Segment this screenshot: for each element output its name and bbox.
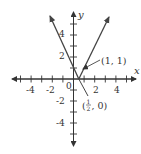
y-axis: y xyxy=(70,9,84,146)
vertex-leader-line xyxy=(79,79,88,96)
y-tick-label-neg2: -2 xyxy=(56,96,65,106)
x-tick-label-4: 4 xyxy=(114,85,120,95)
y-tick-label-2: 2 xyxy=(59,51,65,61)
x-tick-label-neg4: -4 xyxy=(26,85,35,95)
left-branch xyxy=(50,16,79,79)
vertex-label-rest: , 0) xyxy=(92,100,108,111)
vertex-label-numerator: 1 xyxy=(87,98,91,105)
origin-label: 0 xyxy=(66,81,72,91)
x-tick-label-neg2: -2 xyxy=(46,85,55,95)
x-tick-label-2: 2 xyxy=(93,85,99,95)
vertex-label-open-paren: ( xyxy=(82,100,86,111)
y-tick-label-neg4: -4 xyxy=(56,118,65,128)
annotation-vertex: ( 1 2 , 0) xyxy=(82,98,107,113)
vertex-label-denominator: 2 xyxy=(87,105,91,112)
y-axis-label: y xyxy=(77,9,84,20)
right-branch xyxy=(79,17,109,79)
x-axis-label: x xyxy=(134,65,140,76)
point-label-1-1: (1, 1) xyxy=(101,55,127,66)
graph-canvas: x y -4 -2 2 4 4 2 -2 -4 0 (1, 1) ( 1 2 ,… xyxy=(0,0,141,154)
